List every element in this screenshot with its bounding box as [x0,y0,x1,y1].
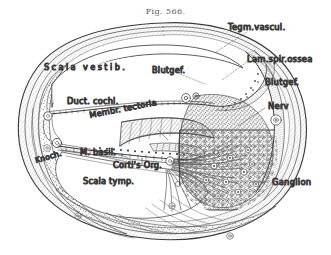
label-tegm-vascul: Tegm.vascul. [227,22,285,32]
label-cortis-org: Corti's Org. [113,160,162,170]
label-blutgef-upper: Blutgef. [152,65,185,75]
anatomical-illustration: Scala vestib. Blutgef. Duct. cochl. Memb… [0,0,331,255]
label-nerv: Nerv [268,101,289,111]
label-ganglion: Ganglion [272,177,311,187]
label-scala-vestib: Scala vestib. [44,62,127,72]
label-blutgef-right: Blutgef. [265,77,299,87]
label-scala-tymp: Scala tymp. [83,176,134,186]
label-m-basil: M. basil. [80,147,116,157]
label-lam-spir-ossea: Lam.spir.ossea [247,54,313,64]
label-duct-cochl: Duct. cochl. [67,96,119,106]
